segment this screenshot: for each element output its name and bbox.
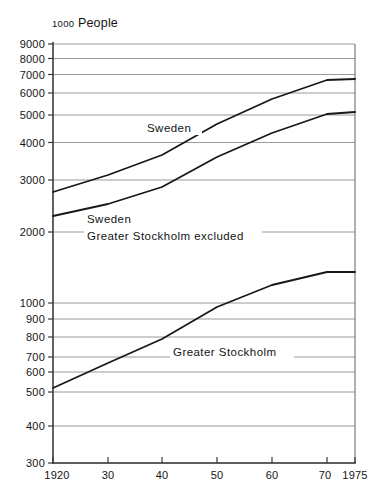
series-line-sweden-excl-stockholm: [53, 112, 355, 216]
y-tick-label: 400: [26, 420, 45, 432]
series-label-sweden-excl-line1: Sweden: [87, 213, 131, 225]
series-label-greater-stockholm: Greater Stockholm: [173, 346, 277, 358]
x-tick-label: 60: [266, 469, 279, 481]
chart-container: 1000 People: [0, 0, 380, 498]
series-line-greater-stockholm: [53, 272, 355, 388]
y-tick-label: 6000: [20, 87, 45, 99]
y-tick-label: 700: [26, 351, 45, 363]
y-tick-label: 800: [26, 331, 45, 343]
x-tick-label: 40: [156, 469, 169, 481]
y-tick-label: 300: [26, 457, 45, 469]
gridlines-horizontal: [53, 44, 355, 463]
x-tick-label: 50: [211, 469, 224, 481]
x-tick-label: 70: [319, 469, 332, 481]
x-tick-label: 1920: [44, 469, 69, 481]
y-tick-label: 5000: [20, 109, 45, 121]
y-axis-tick-labels: 9000 8000 7000 6000 5000 4000 3000 2000 …: [20, 38, 45, 469]
y-tick-label: 9000: [20, 38, 45, 50]
x-tick-label: 1975: [342, 469, 367, 481]
series-label-sweden: Sweden: [147, 122, 191, 134]
y-tick-label: 1000: [20, 297, 45, 309]
y-tick-label: 7000: [20, 69, 45, 81]
y-tick-label: 3000: [20, 174, 45, 186]
y-tick-label: 2000: [20, 226, 45, 238]
y-tick-label: 500: [26, 386, 45, 398]
x-axis-ticks: [53, 457, 355, 463]
series-label-sweden-excl-line2: Greater Stockholm excluded: [87, 230, 244, 242]
line-chart-plot: 9000 8000 7000 6000 5000 4000 3000 2000 …: [0, 0, 380, 498]
y-tick-label: 900: [26, 313, 45, 325]
y-tick-label: 4000: [20, 137, 45, 149]
y-tick-label: 8000: [20, 53, 45, 65]
x-axis-tick-labels: 1920 30 40 50 60 70 1975: [44, 469, 367, 481]
series-line-sweden: [53, 79, 355, 192]
y-tick-label: 600: [26, 366, 45, 378]
x-tick-label: 30: [102, 469, 115, 481]
